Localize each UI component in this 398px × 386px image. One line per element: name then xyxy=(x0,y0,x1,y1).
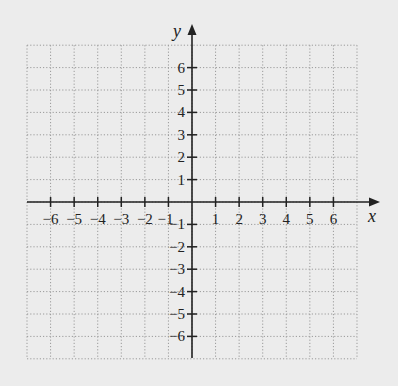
x-tick-label: 2 xyxy=(235,211,243,227)
y-tick-label: −5 xyxy=(169,306,185,322)
y-tick-label: 6 xyxy=(178,60,186,76)
y-tick-label: 4 xyxy=(178,104,186,120)
x-tick-label: −5 xyxy=(66,211,82,227)
y-tick-label: −6 xyxy=(169,328,185,344)
y-tick-label: 2 xyxy=(178,149,186,165)
y-tick-label: −1 xyxy=(169,216,185,232)
x-tick-label: 5 xyxy=(306,211,314,227)
x-tick-label: 3 xyxy=(259,211,267,227)
x-tick-label: −3 xyxy=(113,211,129,227)
y-tick-label: −3 xyxy=(169,261,185,277)
y-axis-arrow-icon xyxy=(188,24,197,35)
y-tick-label: −2 xyxy=(169,239,185,255)
y-axis-label: y xyxy=(171,21,181,41)
x-tick-label: −4 xyxy=(90,211,106,227)
x-tick-label: 6 xyxy=(330,211,338,227)
y-tick-label: −4 xyxy=(169,284,185,300)
x-tick-label: −2 xyxy=(137,211,153,227)
axes xyxy=(27,24,380,358)
x-tick-label: 1 xyxy=(212,211,220,227)
x-tick-label: 4 xyxy=(283,211,291,227)
y-tick-label: 5 xyxy=(178,82,186,98)
x-tick-label: −6 xyxy=(43,211,59,227)
coordinate-plane: −6−5−4−3−2−1123456−6−5−4−3−2−1123456 x y xyxy=(0,0,398,386)
x-axis-label: x xyxy=(367,206,376,226)
y-tick-label: 1 xyxy=(178,172,186,188)
y-tick-label: 3 xyxy=(178,127,186,143)
